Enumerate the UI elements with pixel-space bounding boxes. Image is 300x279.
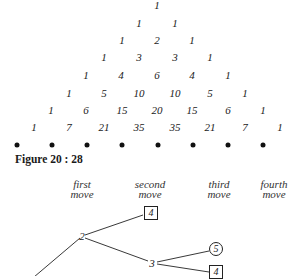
tree-box-node: 4 (144, 206, 158, 220)
tree-node-2: 2 (79, 230, 85, 242)
tree-circle-node: 5 (209, 242, 223, 256)
tree-box-node: 4 (209, 265, 223, 279)
tree-node-3: 3 (149, 257, 155, 269)
